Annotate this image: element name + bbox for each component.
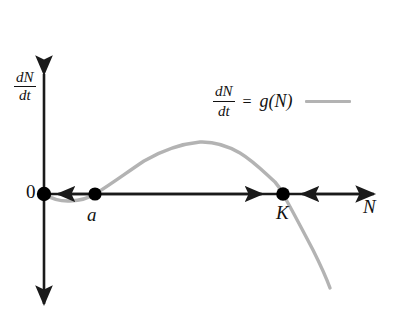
equilibrium-point-origin xyxy=(37,187,51,201)
legend-denominator: dt xyxy=(213,102,235,120)
plot-canvas xyxy=(0,0,397,327)
legend-numerator: dN xyxy=(213,83,235,102)
legend-equals-sign: = xyxy=(241,93,254,111)
origin-tick-label: 0 xyxy=(26,182,36,201)
equilibrium-label-K: K xyxy=(276,203,289,222)
y-axis-label-fraction: dN dt xyxy=(14,70,36,103)
legend-line-swatch xyxy=(305,100,351,103)
y-axis-label-numerator: dN xyxy=(14,70,36,87)
equilibrium-point-K xyxy=(276,187,290,201)
legend: dN dt = g(N) xyxy=(213,83,351,120)
legend-fraction: dN dt xyxy=(213,83,235,120)
x-axis-label: N xyxy=(363,197,376,216)
equilibrium-label-a: a xyxy=(87,205,97,224)
legend-function-label: g(N) xyxy=(260,91,293,112)
y-axis-label-denominator: dt xyxy=(14,87,36,103)
equilibrium-point-a xyxy=(88,187,101,200)
phase-line-figure: dN dt N 0 a K dN dt = g(N) xyxy=(0,0,397,327)
y-axis-label: dN dt xyxy=(14,70,36,103)
